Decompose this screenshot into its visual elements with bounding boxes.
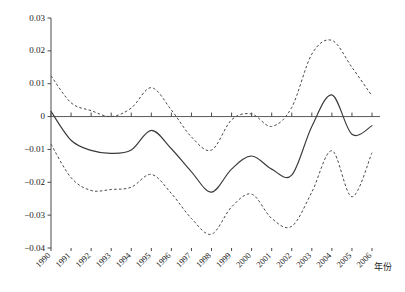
x-tick-label: 2005 (334, 250, 353, 269)
x-tick-label: 1995 (134, 250, 153, 269)
x-tick-label: 2004 (314, 250, 334, 270)
series-lower-confidence-bound (51, 144, 372, 234)
data-series-group (51, 40, 372, 235)
x-tick-label: 1992 (73, 250, 92, 269)
y-tick-label: −0.01 (24, 144, 45, 154)
series-upper-confidence-bound (51, 40, 372, 151)
x-tick-label: 1998 (194, 250, 213, 269)
y-axis-tick-labels: 0.030.020.010−0.01−0.02−0.03−0.04 (24, 13, 45, 253)
x-axis-ticks (51, 113, 372, 117)
x-tick-label: 1993 (94, 250, 113, 269)
x-tick-label: 2006 (354, 250, 373, 269)
y-tick-label: 0.02 (29, 45, 45, 55)
x-tick-label: 1997 (174, 250, 193, 269)
chart-figure: 0.030.020.010−0.01−0.02−0.03−0.04 199019… (0, 0, 405, 292)
y-tick-label: 0.03 (29, 13, 45, 23)
y-tick-label: 0.01 (29, 78, 45, 88)
x-tick-label: 1996 (154, 250, 173, 269)
x-tick-label: 2002 (274, 250, 293, 269)
series-estimate (51, 95, 372, 192)
x-tick-label: 2001 (254, 250, 273, 269)
y-tick-label: −0.02 (24, 177, 45, 187)
x-axis-tick-labels: 1990199119921993199419951996199719981999… (33, 250, 373, 270)
x-tick-label: 1994 (114, 250, 134, 270)
x-axis-title: 年份 (374, 261, 392, 272)
line-chart: 0.030.020.010−0.01−0.02−0.03−0.04 199019… (0, 0, 405, 292)
y-tick-label: −0.04 (24, 243, 45, 253)
y-tick-label: 0 (41, 111, 46, 121)
x-tick-label: 1991 (53, 250, 72, 269)
x-tick-label: 2003 (294, 250, 313, 269)
x-tick-label: 2000 (234, 250, 253, 269)
y-tick-label: −0.03 (24, 210, 45, 220)
x-axis-base-ticks (51, 248, 372, 251)
x-tick-label: 1999 (214, 250, 233, 269)
x-tick-label: 1990 (33, 250, 52, 269)
y-axis-ticks (48, 18, 52, 248)
